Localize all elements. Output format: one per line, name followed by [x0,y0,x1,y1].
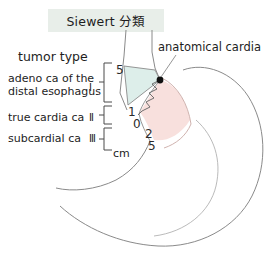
legend-item-type-2: true cardia ca [8,112,84,125]
roman-numeral-type-1: Ⅰ [89,82,92,93]
siewert-classification-figure: Siewert 分類 [0,0,278,263]
bracket-type-2 [104,106,112,124]
anatomical-cardia-leader-line [161,55,176,77]
bracket-type-3 [104,128,112,150]
scale-tick-label-5-lower: 5 [148,139,156,153]
scale-tick-label-0: 0 [133,117,141,131]
anatomical-cardia-marker [157,77,164,84]
roman-numeral-type-3: Ⅲ [89,133,96,144]
bracket-type-1 [104,63,112,102]
tumor-type-heading: tumor type [18,50,88,65]
roman-numeral-type-2: Ⅱ [89,112,94,123]
stomach-lesser-curvature [56,141,150,190]
anatomical-cardia-label: anatomical cardia [158,41,261,55]
scale-tick-label-5-upper: 5 [116,63,124,77]
legend-item-type-3: subcardial ca [8,133,81,146]
legend-item-type-1-line2: distal esophagus [8,86,101,99]
legend-item-type-1: adeno ca of the distal esophagus [8,73,101,99]
scale-unit-label: cm [113,148,130,161]
